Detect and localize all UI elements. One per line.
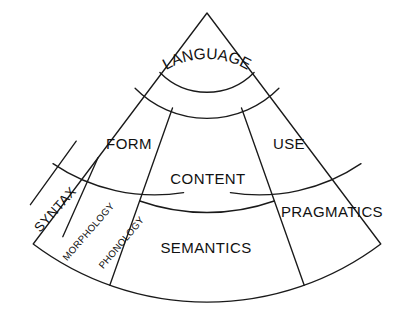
cell-label-form: FORM [106, 135, 152, 152]
cell-label-content: CONTENT [170, 170, 245, 187]
cell-label-pragmatics: PRAGMATICS [281, 203, 383, 220]
diagram-root: LANGUAGE FORM CONTENT USE SEMANTICS PRAG… [0, 0, 417, 312]
cell-label-use: USE [273, 135, 305, 152]
cell-label-semantics: SEMANTICS [160, 239, 251, 256]
fan-diagram-svg: LANGUAGE FORM CONTENT USE SEMANTICS PRAG… [0, 0, 417, 312]
